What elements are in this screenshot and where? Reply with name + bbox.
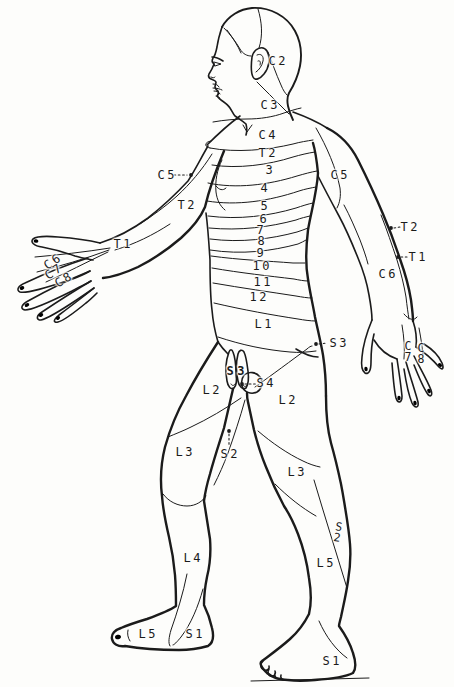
label-t2-right: T2 [398, 221, 420, 233]
label-band-9: 9 [254, 247, 266, 259]
dermatome-chart: C2C3C4T23456789101112L1C5T2T1C6C7C8C5T2T… [0, 0, 454, 687]
label-band-4: 4 [258, 182, 270, 194]
label-s2-back-leg: S2 [333, 521, 343, 543]
label-s1-back-foot: S1 [320, 655, 342, 667]
label-s1-front-foot: S1 [183, 628, 205, 640]
label-band-10: 10 [250, 260, 272, 272]
label-t2-chest: T2 [256, 147, 278, 159]
label-t1-right: T1 [406, 251, 428, 263]
label-l2-front-thigh: L2 [200, 384, 222, 396]
label-l4-shin: L4 [181, 552, 203, 564]
label-s4: S4 [254, 377, 276, 389]
label-band-11: 11 [251, 276, 273, 288]
label-band-5: 5 [258, 200, 270, 212]
label-l3-back-leg: L3 [285, 466, 307, 478]
label-layer: C2C3C4T23456789101112L1C5T2T1C6C7C8C5T2T… [0, 0, 454, 687]
label-l5-back-leg: L5 [314, 557, 336, 569]
label-s3-buttock: S3 [327, 337, 349, 349]
label-c8-right-hand: C8 [418, 343, 425, 364]
label-band-12: 12 [247, 291, 269, 303]
label-c3: C3 [258, 99, 280, 111]
label-c7-right-hand: C7 [405, 341, 412, 362]
label-c6-right-arm: C6 [376, 268, 398, 280]
label-s3-genital: S3 [224, 365, 248, 377]
label-c5-right: C5 [328, 169, 350, 181]
label-l3-front-thigh: L3 [173, 446, 195, 458]
label-c2: C2 [266, 55, 288, 67]
label-c4: C4 [256, 129, 278, 141]
label-l5-front-foot: L5 [136, 628, 158, 640]
label-band-3: 3 [263, 164, 275, 176]
label-c5-left: C5 [155, 169, 177, 181]
label-l1: L1 [252, 318, 274, 330]
label-t1-left-arm: T1 [111, 238, 133, 250]
label-t2-left-arm: T2 [175, 199, 197, 211]
label-l2-back-thigh: L2 [276, 394, 298, 406]
label-s2-crotch: S2 [218, 448, 240, 460]
